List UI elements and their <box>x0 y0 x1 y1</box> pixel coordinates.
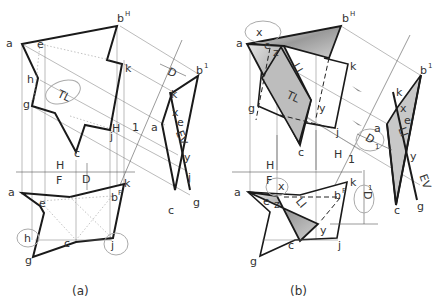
label-top-j-b: j <box>335 126 339 139</box>
label-front-e: e <box>39 197 46 210</box>
label-top-bH: b <box>117 12 124 25</box>
label-fold-h1-h-b: H <box>334 148 342 161</box>
label-aux-e: e <box>177 116 184 129</box>
label-front-d-sub-b: 1 <box>368 184 372 192</box>
label-front-bF-sup-b: F <box>342 187 346 195</box>
label-top-k-b: k <box>350 60 357 73</box>
panel-b: x a e z b H k g y j c LI TL b 1 k x e a … <box>232 10 434 298</box>
label-aux-k-b: k <box>396 86 403 99</box>
descriptive-geometry-figure: a b H e h g k j c TL b 1 k x e a y j c g… <box>0 0 440 304</box>
label-aux-y-b: y <box>410 150 417 163</box>
label-front-h: h <box>24 232 31 245</box>
label-aux-a-b: a <box>374 122 381 135</box>
label-aux-g: g <box>193 196 200 209</box>
panel-a: a b H e h g k j c TL b 1 k x e a y j c g… <box>6 10 208 298</box>
label-front-x-b: x <box>278 180 285 193</box>
arrow-top-2-b <box>352 120 362 126</box>
label-aux-k: k <box>171 88 178 101</box>
label-front-z-b: z <box>274 198 280 211</box>
label-front-d-b: D <box>361 191 374 199</box>
label-top-z-b: z <box>273 46 279 59</box>
label-aux-j: j <box>187 171 191 184</box>
label-front-g-b: g <box>250 255 257 268</box>
label-top-g: g <box>23 98 30 111</box>
label-front-k: k <box>124 177 131 190</box>
label-front-bF-sup: F <box>118 189 122 197</box>
top-hidden-line-a <box>40 44 110 60</box>
caption-a: (a) <box>72 284 89 298</box>
label-front-c: c <box>64 237 70 250</box>
label-fold-hf-f-a: F <box>56 174 62 187</box>
label-top-k: k <box>125 62 132 75</box>
label-aux-g-b: g <box>417 200 424 213</box>
label-top-a: a <box>6 37 13 50</box>
front-hidden-lines-a <box>35 196 112 240</box>
label-front-a-b: a <box>234 186 241 199</box>
j-circle-a <box>104 233 128 255</box>
label-top-x-b: x <box>256 26 263 39</box>
x-circle-top-b <box>245 21 281 43</box>
label-top-y-b: y <box>319 102 326 115</box>
label-aux-a: a <box>151 121 158 134</box>
label-front-e-b: e <box>263 195 270 208</box>
label-top-a-b: a <box>236 37 243 50</box>
label-aux-c-b: c <box>394 204 400 217</box>
label-aux-b1: b <box>196 64 203 77</box>
label-front-bF: b <box>111 191 118 204</box>
label-front-d-a: D <box>82 173 90 186</box>
label-aux-b1-sup-b: 1 <box>428 62 432 70</box>
label-fold-hf-h-b: H <box>266 159 274 172</box>
label-top-e-b: e <box>264 39 271 52</box>
label-aux-ev-b: EV <box>416 172 433 190</box>
label-top-c: c <box>74 147 80 160</box>
front-view-polygon-a <box>22 184 124 257</box>
label-top-bH-b: b <box>342 12 349 25</box>
label-front-j: j <box>110 239 114 252</box>
label-front-c-b: c <box>288 239 294 252</box>
caption-b: (b) <box>290 284 307 298</box>
label-fold-hf-f-b: F <box>266 174 272 187</box>
label-aux-b1-sup: 1 <box>204 62 208 70</box>
label-front-j-b: j <box>337 239 341 252</box>
label-top-c-b: c <box>298 146 304 159</box>
projection-lines-vertical-a <box>22 26 124 242</box>
label-front-g: g <box>25 254 32 267</box>
label-top-bH-sup: H <box>125 10 130 18</box>
label-aux-y: y <box>184 151 191 164</box>
label-fold-h1-1-b: 1 <box>348 153 355 166</box>
label-top-g-b: g <box>248 102 255 115</box>
label-fold-hf-h-a: H <box>56 159 64 172</box>
label-aux-c: c <box>168 204 174 217</box>
label-fold-h1-h-a: H <box>112 122 120 135</box>
label-front-k-b: k <box>350 176 357 189</box>
label-front-a: a <box>8 186 15 199</box>
label-top-h: h <box>27 73 34 86</box>
label-top-bH-sup-b: H <box>350 10 355 18</box>
label-front-bF-b: b <box>334 189 341 202</box>
label-top-e: e <box>37 38 44 51</box>
label-aux-b1-b: b <box>420 64 427 77</box>
label-front-y-b: y <box>320 224 327 237</box>
arrow-top-1-b <box>352 86 362 92</box>
label-aux-d-sub-b: 1 <box>375 143 379 151</box>
label-fold-h1-1-a: 1 <box>132 121 139 134</box>
